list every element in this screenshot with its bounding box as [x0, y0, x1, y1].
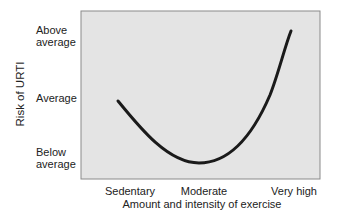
y-axis-label: Risk of URTI: [14, 62, 26, 127]
y-tick-below-average: Below average: [36, 146, 76, 170]
x-tick-very-high: Very high: [271, 185, 317, 197]
y-tick-line: Average: [36, 92, 77, 104]
y-tick-line: Below: [36, 146, 76, 158]
plot-frame: [81, 11, 320, 179]
y-tick-line: average: [36, 158, 76, 170]
y-tick-average: Average: [36, 92, 77, 104]
y-tick-line: Above: [36, 24, 76, 36]
x-tick-moderate: Moderate: [181, 185, 227, 197]
y-tick-above-average: Above average: [36, 24, 76, 48]
y-tick-line: average: [36, 36, 76, 48]
x-tick-sedentary: Sedentary: [105, 185, 155, 197]
x-axis-label: Amount and intensity of exercise: [123, 198, 282, 210]
